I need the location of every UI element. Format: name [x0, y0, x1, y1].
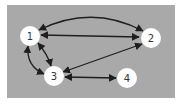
node-2: 2: [141, 28, 161, 48]
node-1-label: 1: [27, 31, 33, 42]
edge-3-4: [65, 77, 116, 78]
edge-1-2-curved: [39, 17, 143, 31]
edge-2-3: [63, 44, 142, 72]
node-3: 3: [44, 66, 64, 86]
node-1: 1: [20, 26, 40, 46]
edge-1-3-curved: [28, 46, 44, 74]
node-4-label: 4: [124, 73, 130, 84]
graph-canvas: 1 2 3 4: [0, 0, 185, 104]
node-2-label: 2: [148, 33, 154, 44]
edge-1-3-straight: [38, 43, 51, 66]
node-3-label: 3: [51, 71, 57, 82]
node-4: 4: [117, 68, 137, 88]
edge-1-2-straight: [41, 35, 139, 37]
